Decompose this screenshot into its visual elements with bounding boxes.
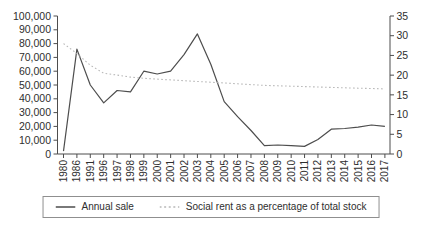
svg-text:1991: 1991 [85,160,96,183]
chart-legend: Annual sale Social rent as a percentage … [43,196,380,218]
svg-text:20,000: 20,000 [19,120,51,132]
svg-text:20: 20 [397,69,409,81]
svg-text:2012: 2012 [312,160,323,183]
svg-text:2006: 2006 [232,160,243,183]
svg-text:0: 0 [397,148,403,160]
svg-text:1997: 1997 [112,160,123,183]
svg-text:5: 5 [397,128,403,140]
svg-text:2003: 2003 [192,160,203,183]
svg-text:1996: 1996 [98,160,109,183]
svg-text:2013: 2013 [326,160,337,183]
svg-text:2000: 2000 [152,160,163,183]
svg-text:25: 25 [397,49,409,61]
svg-text:0: 0 [45,148,51,160]
svg-text:2011: 2011 [299,160,310,182]
svg-text:2010: 2010 [286,160,297,183]
svg-text:70,000: 70,000 [19,51,51,63]
svg-text:15: 15 [397,89,409,101]
svg-text:2001: 2001 [165,160,176,183]
svg-text:100,000: 100,000 [13,10,51,22]
svg-text:2004: 2004 [205,160,216,183]
svg-text:40,000: 40,000 [19,92,51,104]
line-chart-figure: 010,00020,00030,00040,00050,00060,00070,… [0,0,422,231]
svg-text:2002: 2002 [179,160,190,183]
svg-text:1986: 1986 [71,160,82,183]
svg-text:2008: 2008 [259,160,270,183]
svg-text:35: 35 [397,10,409,22]
svg-text:2015: 2015 [353,160,364,183]
legend-label-annual-sale: Annual sale [82,201,134,212]
svg-text:2016: 2016 [366,160,377,183]
svg-text:10,000: 10,000 [19,134,51,146]
svg-text:2007: 2007 [245,160,256,183]
solid-line-swatch-icon [56,205,76,209]
chart-canvas: 010,00020,00030,00040,00050,00060,00070,… [0,0,422,196]
svg-text:10: 10 [397,108,409,120]
legend-item-annual-sale: Annual sale [56,201,134,212]
svg-text:2009: 2009 [272,160,283,183]
svg-text:30: 30 [397,29,409,41]
svg-text:2014: 2014 [339,160,350,183]
svg-text:1998: 1998 [125,160,136,183]
svg-text:60,000: 60,000 [19,65,51,77]
dotted-line-swatch-icon [160,205,180,209]
svg-text:50,000: 50,000 [19,79,51,91]
svg-text:1980: 1980 [58,160,69,183]
legend-item-social-rent: Social rent as a percentage of total sto… [160,201,367,212]
svg-text:2017: 2017 [379,160,390,183]
svg-text:90,000: 90,000 [19,23,51,35]
svg-text:80,000: 80,000 [19,37,51,49]
svg-text:2005: 2005 [219,160,230,183]
legend-label-social-rent: Social rent as a percentage of total sto… [186,201,367,212]
svg-text:30,000: 30,000 [19,106,51,118]
svg-text:1999: 1999 [138,160,149,183]
